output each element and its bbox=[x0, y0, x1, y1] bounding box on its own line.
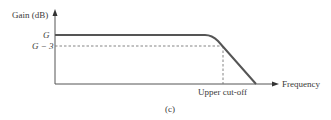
x-axis-label: Frequency bbox=[282, 79, 320, 89]
x-axis-arrow-icon bbox=[272, 82, 279, 87]
caption: (c) bbox=[165, 104, 175, 114]
minus3-level-label: G − 3 bbox=[32, 41, 54, 51]
gain-level-label: G bbox=[43, 30, 50, 40]
gain-curve bbox=[55, 35, 256, 84]
y-axis-label: Gain (dB) bbox=[12, 10, 48, 20]
frequency-response-diagram bbox=[0, 0, 331, 120]
cutoff-label: Upper cut-off bbox=[198, 87, 247, 97]
y-axis-arrow-icon bbox=[53, 9, 58, 16]
